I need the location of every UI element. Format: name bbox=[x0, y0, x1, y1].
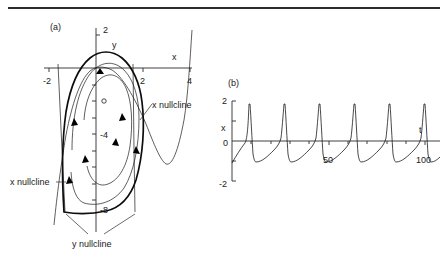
panel-a-ytick-label--4: -4 bbox=[100, 130, 108, 140]
panel-b-label: (b) bbox=[228, 78, 239, 88]
panel-b-y-axis-label: x bbox=[221, 123, 226, 133]
y-nullcline-leader-right bbox=[104, 214, 135, 234]
panel-a-xtick-label--2: -2 bbox=[43, 76, 51, 86]
flow-arrow-1 bbox=[71, 118, 78, 126]
y-nullcline-label: y nullcline bbox=[72, 239, 112, 249]
panel-b-oscillation-trace bbox=[232, 104, 440, 163]
panel-b: (b) 2 0 -2 50 100 bbox=[219, 78, 440, 189]
panel-b-ytick-label-2: 2 bbox=[222, 96, 227, 106]
panel-a-label: (a) bbox=[50, 22, 61, 32]
panel-a-y-axis-label: y bbox=[112, 40, 117, 50]
flow-arrow-4 bbox=[112, 138, 119, 146]
panel-a-xtick-label-2: 2 bbox=[140, 76, 145, 86]
panel-a-x-axis-label: x bbox=[172, 52, 177, 62]
flow-arrow-2 bbox=[119, 113, 126, 121]
panel-a-ytick-label-2: 2 bbox=[103, 25, 108, 35]
panel-a: (a) -2 2 4 2 -4 -8 bbox=[10, 22, 192, 249]
panel-b-ytick-label--2: -2 bbox=[219, 179, 227, 189]
panel-b-ytick-label-0: 0 bbox=[223, 138, 228, 148]
figure-container: (a) -2 2 4 2 -4 -8 bbox=[0, 0, 447, 257]
flow-arrow-7 bbox=[96, 68, 104, 74]
x-nullcline-left-label: x nullcline bbox=[10, 177, 50, 187]
x-nullcline-right-label: x nullcline bbox=[152, 100, 192, 110]
flow-arrow-6 bbox=[82, 155, 89, 163]
y-nullcline-leader-left bbox=[66, 214, 88, 234]
figure-svg: (a) -2 2 4 2 -4 -8 bbox=[0, 0, 447, 257]
fixed-point-marker bbox=[102, 99, 106, 103]
